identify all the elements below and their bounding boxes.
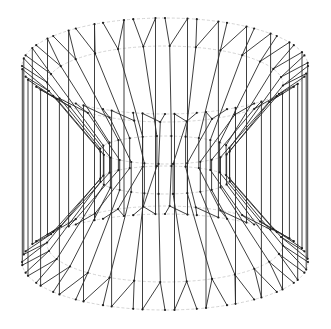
- vertex-dot: [205, 307, 207, 309]
- vertex-dot: [111, 305, 113, 307]
- vertex-dot: [196, 308, 198, 310]
- vertex-dot: [301, 51, 303, 53]
- vertex-dot: [272, 68, 274, 70]
- vertex-dot: [46, 241, 48, 243]
- strip-edge: [159, 114, 165, 310]
- vertex-dot: [253, 223, 255, 225]
- vertex-dot: [143, 192, 145, 194]
- strip-diagonal: [269, 93, 282, 289]
- vertex-dot: [156, 165, 158, 167]
- vertex-dot: [228, 177, 230, 179]
- vertex-dot: [154, 213, 156, 215]
- vertex-dot: [109, 187, 111, 189]
- vertex-dot: [186, 120, 188, 122]
- vertex-dot: [68, 225, 70, 227]
- vertex-dot: [270, 229, 272, 231]
- vertex-dot: [123, 19, 125, 21]
- vertex-dot: [211, 189, 213, 191]
- vertex-dot: [23, 253, 25, 255]
- vertex-dot: [185, 166, 187, 168]
- vertex-dot: [109, 277, 111, 279]
- vertex-dot: [75, 218, 77, 220]
- guide-ellipses: [22, 18, 308, 310]
- vertex-dot: [109, 157, 111, 159]
- vertex-dot: [245, 26, 247, 28]
- vertex-dot: [186, 18, 188, 20]
- vertex-dot: [25, 272, 27, 274]
- vertex-dot: [87, 272, 89, 274]
- vertex-dot: [109, 117, 111, 119]
- vertex-dot: [234, 303, 236, 305]
- vertex-dot: [259, 60, 261, 62]
- vertex-dot: [241, 54, 243, 56]
- vertex-dot: [278, 93, 280, 95]
- vertex-dot: [281, 288, 283, 290]
- vertex-dot: [303, 272, 305, 274]
- vertex-dot: [35, 240, 37, 242]
- vertex-dot: [99, 148, 101, 150]
- vertex-dot: [48, 90, 50, 92]
- vertex-dot: [52, 35, 54, 37]
- vertex-dot: [293, 240, 295, 242]
- vertex-dot: [226, 183, 228, 185]
- vertex-dot: [253, 268, 255, 270]
- vertex-dot: [297, 279, 299, 281]
- vertex-dot: [99, 181, 101, 183]
- vertex-dot: [102, 108, 104, 110]
- vertex-dot: [46, 234, 48, 236]
- vertex-dot: [199, 161, 201, 163]
- vertex-dot: [199, 191, 201, 193]
- vertex-dot: [229, 180, 231, 182]
- vertex-dot: [219, 141, 221, 143]
- vertex-dot: [132, 308, 134, 310]
- vertex-dot: [268, 101, 270, 103]
- vertex-dot: [21, 264, 23, 266]
- vertex-dot: [205, 111, 207, 113]
- vertex-dot: [219, 209, 221, 211]
- vertex-dot: [132, 112, 134, 114]
- vertex-dot: [35, 86, 37, 88]
- vertex-dot: [21, 65, 23, 67]
- vertex-dot: [307, 65, 309, 67]
- vertex-dot: [276, 95, 278, 97]
- vertex-dot: [301, 247, 303, 249]
- vertex-dot: [185, 136, 187, 138]
- vertex-dot: [217, 216, 219, 218]
- vertex-dot: [305, 269, 307, 271]
- strip-edge: [230, 66, 308, 262]
- vertex-dot: [211, 159, 213, 161]
- vertex-dot: [303, 76, 305, 78]
- vertex-dot: [50, 73, 52, 75]
- vertex-dot: [211, 118, 213, 120]
- vertex-dot: [142, 166, 144, 168]
- vertex-dot: [75, 102, 77, 104]
- vertex-dot: [209, 139, 211, 141]
- vertex-dot: [293, 282, 295, 284]
- vertex-dot: [172, 163, 174, 165]
- vertex-dot: [164, 113, 166, 115]
- vertex-dot: [130, 161, 132, 163]
- vertex-dot: [282, 244, 284, 246]
- vertex-dot: [102, 145, 104, 147]
- vertex-dot: [132, 18, 134, 20]
- vertex-dot: [117, 139, 119, 141]
- strip-vertices: [21, 17, 309, 311]
- vertex-dot: [170, 165, 172, 167]
- vertex-dot: [297, 83, 299, 85]
- vertex-dot: [307, 258, 309, 260]
- vertex-dot: [288, 41, 290, 43]
- inner-bottom-ellipse: [47, 206, 283, 282]
- vertex-dot: [226, 218, 228, 220]
- vertex-dot: [253, 108, 255, 110]
- vertex-dot: [173, 309, 175, 311]
- vertex-dot: [307, 62, 309, 64]
- vertex-dot: [52, 291, 54, 293]
- vertex-dot: [260, 296, 262, 298]
- strip-diagonal: [260, 42, 289, 238]
- strip-diagonal: [254, 102, 261, 298]
- vertex-dot: [50, 233, 52, 235]
- vertex-dot: [186, 162, 188, 164]
- vertex-dot: [99, 178, 101, 180]
- vertex-dot: [93, 23, 95, 25]
- vertex-dot: [143, 162, 145, 164]
